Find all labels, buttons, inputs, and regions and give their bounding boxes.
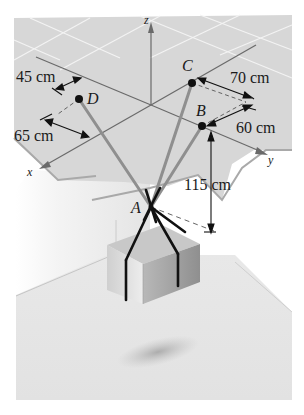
dim-70cm: 70 cm bbox=[230, 69, 270, 86]
dim-45cm: 45 cm bbox=[16, 68, 56, 85]
label-x-axis: x bbox=[26, 165, 33, 179]
statics-diagram: C B D A z x y 45 cm 65 cm 70 cm 60 cm 11… bbox=[0, 0, 304, 415]
dim-60cm: 60 cm bbox=[236, 119, 276, 136]
ceiling bbox=[14, 15, 292, 200]
label-C: C bbox=[182, 57, 193, 74]
label-D: D bbox=[86, 90, 99, 107]
point-A bbox=[149, 205, 154, 210]
label-A: A bbox=[130, 199, 141, 216]
point-B bbox=[198, 122, 206, 130]
point-D bbox=[75, 95, 83, 103]
dim-65cm: 65 cm bbox=[14, 127, 54, 144]
dim-115cm: 115 cm bbox=[184, 176, 232, 193]
label-B: B bbox=[196, 102, 206, 119]
point-C bbox=[188, 79, 196, 87]
label-y-axis: y bbox=[267, 153, 274, 167]
label-z-axis: z bbox=[143, 13, 149, 27]
